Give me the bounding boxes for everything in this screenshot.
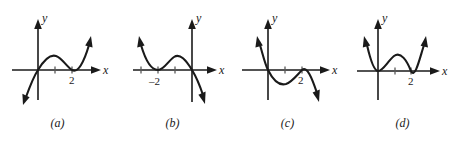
y-axis-arrowhead-icon bbox=[188, 19, 196, 29]
curve-arrowhead-upper-right-icon bbox=[85, 36, 92, 47]
graph-panel-a: x y 2 (a) bbox=[0, 0, 115, 141]
x-axis-label: x bbox=[331, 63, 338, 77]
y-axis-label: y bbox=[41, 11, 48, 25]
x-axis-arrowhead-icon bbox=[430, 67, 440, 75]
curve-arrowhead-lower-right-icon bbox=[313, 90, 320, 102]
panel-caption-a: (a) bbox=[0, 116, 115, 131]
curve-arrowhead-upper-right-icon bbox=[421, 36, 428, 47]
curve-arrowhead-upper-left-icon bbox=[255, 36, 262, 47]
x-axis-arrowhead-icon bbox=[320, 66, 330, 74]
graph-panel-d: x y 2 (d) bbox=[345, 0, 460, 141]
x-axis-label: x bbox=[441, 64, 448, 78]
graph-panel-d-plot: x y 2 bbox=[345, 0, 460, 116]
x-tick-label: 2 bbox=[408, 75, 414, 87]
x-axis-arrowhead-icon bbox=[207, 66, 217, 74]
x-tick-label: –2 bbox=[148, 75, 160, 87]
x-tick-label: 2 bbox=[69, 74, 75, 86]
graph-panel-c: x y 2 (c) bbox=[230, 0, 345, 141]
graph-panel-b: x y –2 (b) bbox=[115, 0, 230, 141]
y-axis-arrowhead-icon bbox=[264, 19, 272, 29]
x-axis-label: x bbox=[102, 63, 109, 77]
y-axis-label: y bbox=[381, 11, 388, 25]
curve-arrowhead-upper-left-icon bbox=[363, 36, 370, 47]
y-axis-label: y bbox=[271, 11, 278, 25]
graph-panel-c-plot: x y 2 bbox=[230, 0, 345, 116]
x-axis-arrowhead-icon bbox=[91, 66, 101, 74]
x-tick-label: 2 bbox=[298, 74, 304, 86]
y-axis-arrowhead-icon bbox=[374, 19, 382, 29]
curve-arrowhead-lower-right-icon bbox=[198, 92, 205, 104]
panel-caption-b: (b) bbox=[115, 116, 230, 131]
x-axis-label: x bbox=[218, 63, 225, 77]
panel-caption-c: (c) bbox=[230, 116, 345, 131]
panel-caption-d: (d) bbox=[345, 116, 460, 131]
curve-arrowhead-upper-left-icon bbox=[137, 36, 144, 47]
y-axis-label: y bbox=[195, 11, 202, 25]
curve-path bbox=[26, 45, 89, 97]
graph-panel-b-plot: x y –2 bbox=[115, 0, 230, 116]
y-axis-arrowhead-icon bbox=[34, 19, 42, 29]
graph-panel-a-plot: x y 2 bbox=[0, 0, 115, 116]
graph-figure: x y 2 (a) x y –2 (b) bbox=[0, 0, 460, 141]
